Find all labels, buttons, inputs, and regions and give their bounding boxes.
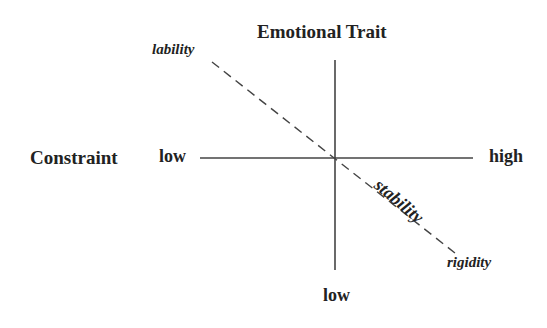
horizontal-axis-high-label: high [489,147,523,165]
horizontal-axis-low-label: low [159,147,186,165]
vertical-axis-low-label: low [323,286,350,304]
vertical-axis-title: Emotional Trait [257,22,387,41]
lability-label: lability [152,42,195,57]
horizontal-axis-title: Constraint [30,148,118,167]
rigidity-label: rigidity [447,255,491,270]
emotional-trait-constraint-diagram: Emotional Trait Constraint low high low … [0,0,547,328]
